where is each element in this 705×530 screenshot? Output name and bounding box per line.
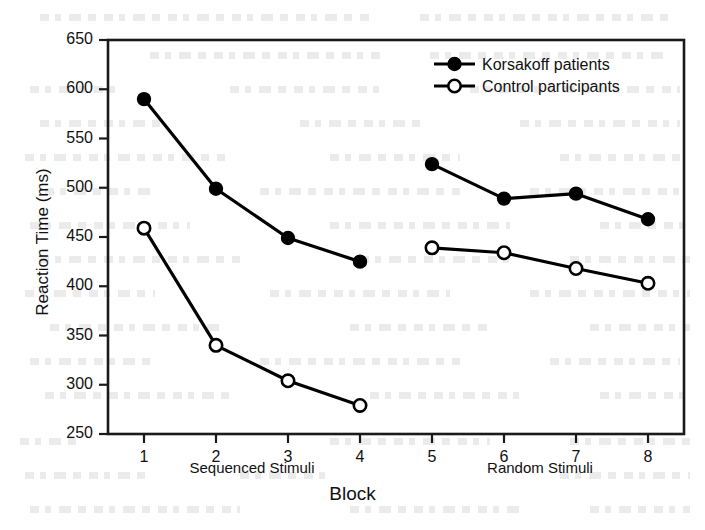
data-point-marker [354,399,366,411]
series-control [138,222,654,412]
data-point-marker [498,247,510,259]
y-tick-label: 500 [13,178,93,196]
legend-label-control: Control participants [482,78,620,96]
y-axis-ticks [99,40,108,434]
series-line [144,99,360,262]
data-point-marker [210,182,223,195]
data-point-marker [282,232,295,245]
x-axis-title: Block [0,483,705,505]
y-tick-label: 550 [13,129,93,147]
group-label-sequenced: Sequenced Stimuli [142,459,362,476]
series-korsakoff [138,93,655,268]
y-tick-label: 650 [13,30,93,48]
data-point-marker [570,187,583,200]
plot-frame [108,40,684,434]
data-point-marker [354,255,367,268]
y-axis-title: Reaction Time (ms) [33,137,53,347]
reaction-time-line-chart: 250300350400450500550600650 12345678 Rea… [0,0,705,530]
data-point-marker [426,158,439,171]
data-point-marker [570,262,582,274]
y-tick-label: 350 [13,326,93,344]
legend-marker-layer [434,58,475,93]
legend-sample-marker [448,80,460,92]
series-line [144,228,360,405]
group-label-random: Random Stimuli [430,459,650,476]
data-point-marker [282,375,294,387]
legend-label-korsakoff: Korsakoff patients [482,56,610,74]
data-point-marker [642,213,655,226]
legend-sample-marker [448,58,461,71]
data-point-marker [138,222,150,234]
y-tick-label: 600 [13,79,93,97]
series-line [432,248,648,283]
data-point-marker [498,192,511,205]
y-tick-label: 450 [13,227,93,245]
data-series-layer [138,93,655,412]
series-line [432,164,648,219]
y-tick-label: 400 [13,276,93,294]
data-point-marker [210,339,222,351]
data-point-marker [426,242,438,254]
data-point-marker [138,93,151,106]
y-tick-label: 300 [13,375,93,393]
x-axis-ticks [144,434,648,443]
y-tick-label: 250 [13,424,93,442]
data-point-marker [642,277,654,289]
